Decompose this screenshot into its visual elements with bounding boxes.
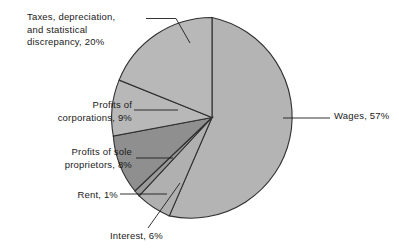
pie-chart-figure: Taxes, depreciation, and statistical dis… (0, 0, 399, 252)
slice-label-taxes: Taxes, depreciation, and statistical dis… (27, 11, 145, 49)
slice-label-wages: Wages, 57% (334, 110, 398, 123)
slice-label-rent: Rent, 1% (40, 189, 118, 202)
slice-label-sole-proprietors: Profits of sole proprietors, 8% (14, 146, 132, 171)
slice-label-interest: Interest, 6% (110, 230, 200, 243)
slice-label-corporations: Profits of corporations, 9% (22, 99, 132, 124)
